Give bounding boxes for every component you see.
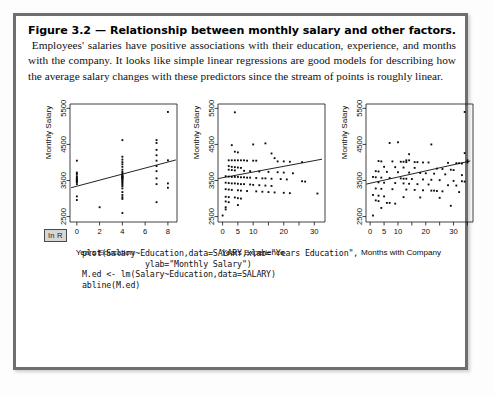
svg-text:5500: 5500	[60, 100, 69, 117]
svg-text:3500: 3500	[60, 172, 69, 189]
figure-title: Relationship between monthly salary and …	[110, 24, 456, 37]
svg-text:4500: 4500	[60, 136, 69, 153]
figure-em-dash: —	[95, 24, 106, 37]
svg-text:30: 30	[449, 227, 457, 236]
r-code-block: In R plot(Salary~Education,data=SALARY,x…	[44, 224, 444, 290]
svg-text:3500: 3500	[208, 172, 217, 189]
figure-caption: Figure 3.2 — Relationship between monthl…	[28, 23, 456, 84]
svg-text:5500: 5500	[356, 100, 365, 117]
svg-text:4500: 4500	[208, 136, 217, 153]
svg-text:2500: 2500	[208, 208, 217, 225]
svg-text:2500: 2500	[60, 208, 69, 225]
figure-frame: Figure 3.2 — Relationship between monthl…	[13, 13, 468, 370]
svg-text:2500: 2500	[356, 208, 365, 225]
svg-text:3500: 3500	[356, 172, 365, 189]
svg-text:4500: 4500	[356, 136, 365, 153]
in-r-badge: In R	[44, 229, 67, 242]
svg-text:5500: 5500	[208, 100, 217, 117]
figure-number: Figure 3.2	[28, 24, 91, 37]
page-background: Figure 3.2 — Relationship between monthl…	[0, 0, 494, 395]
figure-body-text: Employees' salaries have positive associ…	[28, 39, 456, 81]
r-code-text: plot(Salary~Education,data=SALARY,xlab="…	[82, 248, 444, 290]
